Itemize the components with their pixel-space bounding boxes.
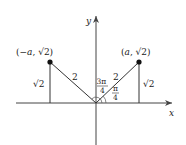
right-hypotenuse-label: 2 [113,72,119,82]
right-point [136,59,141,64]
unit-angle-diagram: x y (−a, √2) (a, √2) 2 2 √2 √2 [0,0,186,145]
acute-angle-arc [103,96,106,103]
left-hypotenuse [50,62,96,103]
obtuse-angle-label: 3π 4 [97,77,109,95]
left-point-label: (−a, √2) [16,47,53,57]
x-axis-label: x [169,108,174,118]
acute-angle-label: π 4 [112,84,119,102]
left-point [47,59,52,64]
left-hypotenuse-label: 2 [72,72,78,82]
right-height-label: √2 [143,79,154,89]
left-height-label: √2 [33,79,44,89]
svg-text:3π: 3π [97,77,107,86]
svg-text:4: 4 [113,93,118,102]
svg-text:4: 4 [100,86,105,95]
y-axis-label: y [85,16,92,26]
svg-text:π: π [113,84,118,93]
right-point-label: (a, √2) [121,47,151,57]
